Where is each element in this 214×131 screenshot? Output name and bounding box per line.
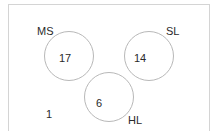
label-sl: SL [166,25,179,37]
count-ms: 17 [59,52,71,64]
count-outside: 1 [46,108,52,120]
circle-sl [125,32,174,81]
label-hl: HL [128,114,142,126]
count-sl: 14 [134,52,146,64]
venn-diagram: MS SL HL 17 14 6 1 [0,0,214,131]
circle-hl [85,73,134,122]
label-ms: MS [37,25,54,37]
count-hl: 6 [96,97,102,109]
